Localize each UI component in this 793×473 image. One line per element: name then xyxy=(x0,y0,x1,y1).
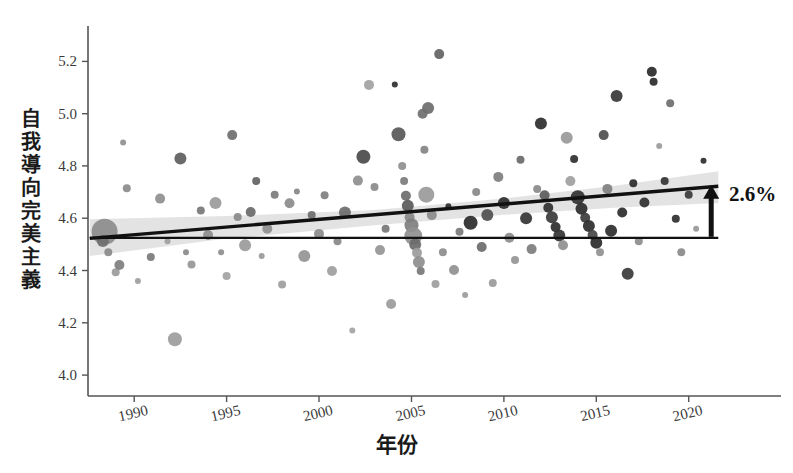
scatter-point xyxy=(364,80,374,90)
scatter-point xyxy=(402,200,414,212)
scatter-point xyxy=(401,191,411,201)
scatter-point xyxy=(650,78,658,86)
scatter-point xyxy=(456,228,464,236)
scatter-point xyxy=(392,127,406,141)
scatter-point xyxy=(493,172,503,182)
scatter-point xyxy=(223,272,231,280)
y-axis-tick-label: 4.4 xyxy=(58,263,77,279)
y-axis-title-char: 主 xyxy=(14,246,48,269)
scatter-point xyxy=(661,177,669,185)
scatter-point xyxy=(685,191,693,199)
scatter-point xyxy=(517,156,525,164)
scatter-point xyxy=(183,249,189,255)
scatter-point xyxy=(647,67,657,77)
scatter-point xyxy=(558,240,568,250)
scatter-point xyxy=(596,248,604,256)
scatter-point xyxy=(104,248,112,256)
scatter-point xyxy=(570,155,578,163)
scatter-point xyxy=(412,248,422,258)
scatter-point xyxy=(546,211,558,223)
x-axis-tick-label: 2020 xyxy=(671,402,704,424)
y-axis-title-char: 自 xyxy=(14,108,48,131)
scatter-plot: 4.04.24.44.64.85.05.21990199520002005201… xyxy=(0,0,793,473)
chart-container: 自 我 導 向 完 美 主 義 年份 2.6% 4.04.24.44.64.85… xyxy=(0,0,793,473)
scatter-point xyxy=(400,177,408,185)
scatter-point xyxy=(629,179,637,187)
scatter-point xyxy=(210,197,222,209)
y-axis-title-char: 義 xyxy=(14,269,48,292)
x-axis-tick-label: 2005 xyxy=(394,402,427,424)
x-axis-tick-label: 1995 xyxy=(209,402,242,424)
scatter-point xyxy=(285,198,295,208)
scatter-point xyxy=(464,216,478,230)
scatter-point xyxy=(168,332,182,346)
scatter-point xyxy=(449,265,459,275)
scatter-point xyxy=(489,279,497,287)
y-axis-tick-label: 5.2 xyxy=(58,53,77,69)
scatter-point xyxy=(639,198,649,208)
scatter-point xyxy=(656,143,662,149)
x-axis-tick-label: 2000 xyxy=(301,402,334,424)
scatter-point xyxy=(382,225,390,233)
scatter-point xyxy=(246,207,256,217)
scatter-point xyxy=(356,150,370,164)
scatter-point xyxy=(693,226,699,232)
scatter-point xyxy=(472,188,480,196)
scatter-point xyxy=(561,132,573,144)
scatter-point xyxy=(259,253,265,259)
scatter-point xyxy=(666,99,674,107)
y-axis-tick-label: 4.2 xyxy=(58,315,77,331)
scatter-point xyxy=(677,248,685,256)
scatter-point xyxy=(398,162,406,170)
scatter-point xyxy=(392,81,398,87)
scatter-point xyxy=(599,130,609,140)
scatter-point xyxy=(386,299,396,309)
scatter-point xyxy=(349,328,355,334)
scatter-point xyxy=(188,261,196,269)
scatter-point xyxy=(123,184,131,192)
scatter-point xyxy=(174,153,186,165)
scatter-point xyxy=(165,238,171,244)
scatter-point xyxy=(535,118,547,130)
scatter-point xyxy=(155,194,165,204)
scatter-point xyxy=(418,187,434,203)
scatter-point xyxy=(197,206,205,214)
scatter-point xyxy=(278,281,286,289)
y-axis-title-char: 美 xyxy=(14,223,48,246)
y-axis-title: 自 我 導 向 完 美 主 義 xyxy=(14,108,48,292)
scatter-point xyxy=(239,239,251,251)
scatter-point xyxy=(527,244,537,254)
scatter-point xyxy=(434,49,444,59)
x-axis-title: 年份 xyxy=(352,428,442,458)
scatter-point xyxy=(135,278,141,284)
y-axis-tick-label: 4.6 xyxy=(58,210,77,226)
y-axis-tick-label: 4.8 xyxy=(58,158,77,174)
scatter-point xyxy=(371,183,379,191)
y-axis-tick-label: 5.0 xyxy=(58,106,77,122)
scatter-point xyxy=(439,248,447,256)
scatter-point xyxy=(540,190,550,200)
scatter-point xyxy=(477,242,487,252)
scatter-point xyxy=(120,139,126,145)
scatter-point xyxy=(481,209,493,221)
scatter-point xyxy=(672,215,680,223)
scatter-point xyxy=(432,280,440,288)
scatter-point xyxy=(218,249,224,255)
scatter-point xyxy=(511,256,519,264)
scatter-point xyxy=(114,260,124,270)
y-axis-title-char: 完 xyxy=(14,200,48,223)
y-axis-tick-label: 4.0 xyxy=(58,367,77,383)
scatter-point xyxy=(298,250,310,262)
scatter-point xyxy=(252,177,260,185)
scatter-point xyxy=(462,292,468,298)
scatter-point xyxy=(375,245,385,255)
x-axis-tick-label: 2015 xyxy=(579,402,612,424)
scatter-point xyxy=(611,90,623,102)
scatter-point xyxy=(520,212,532,224)
scatter-point xyxy=(422,102,434,114)
scatter-point xyxy=(271,191,279,199)
scatter-point xyxy=(234,213,242,221)
scatter-point xyxy=(417,267,425,275)
y-axis-title-char: 導 xyxy=(14,154,48,177)
change-annotation-label: 2.6% xyxy=(729,182,776,207)
